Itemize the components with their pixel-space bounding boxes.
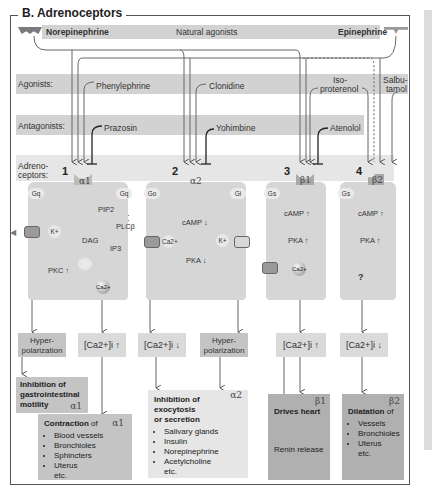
pka-up-beta2: PKA ↑	[360, 236, 380, 245]
gq-protein-left: Gq	[28, 188, 44, 199]
calcium-up-alpha1: [Ca2+]i ↑	[78, 333, 126, 357]
gq-protein-right: Gq	[116, 188, 132, 199]
ca-channel-beta1-icon	[262, 262, 278, 274]
contraction-tag: α1	[112, 418, 124, 428]
renin-release-label: Renin release	[274, 445, 324, 455]
camp-up-beta2: cAMP ↑	[358, 209, 384, 218]
contraction-item: Blood vessels	[54, 431, 126, 441]
camp-up-beta1: cAMP ↑	[284, 209, 310, 218]
k-ion-alpha1: K+	[48, 225, 61, 238]
gs-protein-beta2: Gs	[338, 188, 354, 199]
receptor-number-1: 1	[62, 165, 68, 177]
unknown-effect-beta2: ?	[358, 272, 364, 282]
k-channel-alpha2-icon	[234, 236, 250, 248]
calcium-up-alpha1-text: [Ca2+]i ↑	[84, 340, 120, 350]
receptor-number-3: 3	[284, 165, 290, 177]
ca-channel-alpha2-icon	[144, 236, 160, 248]
effect-dilatation: β2 Dilatation of Vessels Bronchioles Ute…	[342, 394, 404, 480]
alpha1-receptor-label: α1	[79, 176, 91, 186]
effect-inhibition-exocytosis: Inhibition of exocytosis or secretion α2…	[148, 390, 248, 478]
cell-alpha2	[146, 182, 246, 300]
calcium-down-alpha2-text: [Ca2+]i ↓	[144, 340, 180, 350]
ca-ion-alpha1: Ca2+	[96, 280, 110, 294]
calcium-down-alpha2: [Ca2+]i ↓	[138, 333, 186, 357]
er-vesicle-icon	[78, 258, 92, 270]
exocytosis-title-line1: Inhibition of	[154, 395, 242, 405]
contraction-suffix: of	[89, 419, 98, 428]
pip2-label: PIP2	[98, 205, 114, 214]
dilatation-item: Uterus	[358, 439, 398, 449]
k-ion-alpha2: K+	[216, 234, 229, 247]
beta1-receptor-label: β1	[300, 175, 311, 185]
dilatation-etc: etc.	[348, 449, 398, 459]
k-channel-alpha1-icon	[24, 226, 40, 238]
dilatation-title: Dilatation	[348, 407, 384, 416]
dilatation-suffix: of	[384, 407, 393, 416]
gi-inhibition-tag: α1	[70, 401, 82, 411]
receptor-number-2: 2	[172, 165, 178, 177]
contraction-item: Uterus	[54, 461, 126, 471]
gi-protein: Gi	[230, 188, 246, 199]
calcium-up-beta1-text: [Ca2+]i ↑	[283, 340, 319, 350]
drives-heart-tag: β1	[315, 396, 326, 406]
cell-alpha1	[28, 182, 128, 300]
dilatation-item: Vessels	[358, 419, 398, 429]
beta2-receptor-label: β2	[372, 175, 383, 185]
camp-down-alpha2: cAMP ↓	[182, 218, 208, 227]
effect-drives-heart: β1 Drives heart Renin release	[268, 394, 330, 480]
effect-gi-motility-inhibition: Inhibition of gastrointestinal motility …	[16, 377, 88, 413]
gs-protein-beta1: Gs	[264, 188, 280, 199]
effect-contraction: Contraction of α1 Blood vessels Bronchio…	[38, 414, 132, 480]
exocytosis-title-line3: or secretion	[154, 415, 242, 425]
pkc-up-label: PKC ↑	[48, 266, 69, 275]
exocytosis-title-line2: exocytosis	[154, 405, 242, 415]
exocytosis-item: Norepinephrine	[164, 447, 242, 457]
exocytosis-item: Insulin	[164, 437, 242, 447]
contraction-etc: etc.	[44, 471, 126, 481]
exocytosis-tag: α2	[230, 390, 242, 400]
contraction-title: Contraction	[44, 419, 89, 428]
calcium-down-beta2-text: [Ca2+]i ↓	[346, 340, 382, 350]
dilatation-item: Bronchioles	[358, 429, 398, 439]
go-protein: Go	[144, 188, 160, 199]
exocytosis-item: Acetylcholine	[164, 457, 242, 467]
calcium-up-beta1: [Ca2+]i ↑	[276, 333, 326, 357]
contraction-item: Sphincters	[54, 451, 126, 461]
drives-heart-title: Drives heart	[274, 407, 324, 417]
hyperpolarization-alpha2-text: Hyper-polarization	[204, 336, 245, 355]
exocytosis-item: Salivary glands	[164, 427, 242, 437]
ip3-label: IP3	[110, 244, 121, 253]
contraction-item: Bronchioles	[54, 441, 126, 451]
gi-inhibition-line2: gastrointestinal	[20, 390, 84, 400]
alpha2-receptor-label: α2	[190, 176, 202, 186]
pka-up-beta1: PKA ↑	[288, 236, 308, 245]
dilatation-tag: β2	[389, 396, 400, 406]
plc-beta-label: PLCβ	[116, 222, 135, 231]
ca-ion-beta1: Ca2+	[292, 262, 306, 276]
hyperpolarization-alpha1-text: Hyper-polarization	[22, 336, 63, 355]
hyperpolarization-alpha1: Hyper-polarization	[18, 333, 66, 357]
pka-down-alpha2: PKA ↓	[186, 256, 206, 265]
receptor-number-4: 4	[356, 165, 362, 177]
gi-inhibition-line1: Inhibition of	[20, 380, 84, 390]
dag-label: DAG	[82, 236, 98, 245]
exocytosis-etc: etc.	[154, 467, 242, 477]
hyperpolarization-alpha2: Hyper-polarization	[200, 333, 248, 357]
calcium-down-beta2: [Ca2+]i ↓	[340, 333, 388, 357]
ca-ion-alpha2: Ca2+	[162, 235, 175, 248]
efflux-arrow-icon: ◀	[10, 228, 16, 237]
